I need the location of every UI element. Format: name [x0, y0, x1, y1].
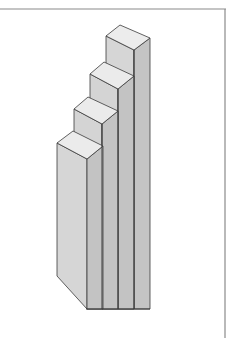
bar-1	[57, 131, 103, 309]
bar-3-side-face	[118, 76, 134, 309]
bar-1-front-face	[57, 143, 87, 309]
diagram-canvas: Stepped 3D bars Four isometric rectangul…	[0, 0, 235, 338]
bar-4-side-face	[134, 38, 150, 309]
stepped-bars-figure	[0, 0, 235, 338]
bar-2-side-face	[102, 111, 118, 309]
bar-1-side-face	[87, 146, 103, 309]
